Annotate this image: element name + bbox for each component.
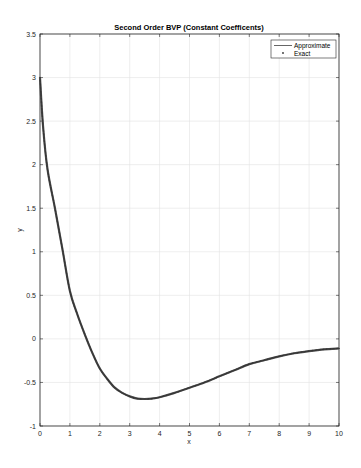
exact-marker <box>138 398 140 400</box>
x-tick-label: 5 <box>188 430 192 437</box>
exact-marker <box>40 99 42 101</box>
exact-marker <box>64 263 66 265</box>
exact-marker <box>44 148 46 150</box>
exact-marker <box>41 105 43 107</box>
y-tick-label: 1 <box>32 248 36 255</box>
exact-marker <box>303 351 305 353</box>
exact-marker <box>330 348 332 350</box>
exact-marker <box>63 259 65 261</box>
exact-marker <box>67 277 69 279</box>
exact-marker <box>159 396 161 398</box>
exact-marker <box>324 348 326 350</box>
exact-marker <box>42 124 44 126</box>
x-tick-label: 3 <box>128 430 132 437</box>
exact-marker <box>152 398 154 400</box>
exact-marker <box>144 398 146 400</box>
exact-marker <box>44 141 46 143</box>
exact-marker <box>52 199 54 201</box>
exact-marker <box>64 262 66 264</box>
exact-marker <box>44 145 46 147</box>
exact-marker <box>302 351 304 353</box>
exact-marker <box>57 222 59 224</box>
exact-marker <box>45 155 47 157</box>
exact-marker <box>42 121 44 123</box>
exact-marker <box>316 349 318 351</box>
exact-marker <box>43 130 45 132</box>
exact-marker <box>53 201 55 203</box>
exact-marker <box>49 184 51 186</box>
exact-marker <box>272 357 274 359</box>
exact-marker <box>49 181 51 183</box>
exact-marker <box>41 112 43 114</box>
exact-marker <box>65 267 67 269</box>
exact-marker <box>46 160 48 162</box>
exact-marker <box>68 285 70 287</box>
exact-marker <box>334 348 336 350</box>
exact-marker <box>47 167 49 169</box>
exact-marker <box>50 186 52 188</box>
exact-marker <box>261 360 263 362</box>
exact-marker <box>64 260 66 262</box>
exact-marker <box>58 226 60 228</box>
exact-marker <box>58 229 60 231</box>
exact-marker <box>148 398 150 400</box>
exact-marker <box>42 120 44 122</box>
exact-marker <box>62 252 64 254</box>
exact-marker <box>40 85 42 87</box>
exact-marker <box>60 238 62 240</box>
exact-marker <box>47 170 49 172</box>
exact-marker <box>41 103 43 105</box>
x-tick-labels: 012345678910 <box>38 430 343 437</box>
exact-marker <box>295 352 297 354</box>
exact-marker <box>63 258 65 260</box>
exact-marker <box>68 284 70 286</box>
exact-marker <box>50 189 52 191</box>
exact-marker <box>312 350 314 352</box>
exact-marker <box>45 153 47 155</box>
exact-marker <box>309 350 311 352</box>
exact-marker <box>45 157 47 159</box>
exact-marker <box>46 166 48 168</box>
exact-marker <box>67 281 69 283</box>
exact-marker <box>335 348 337 350</box>
exact-marker <box>49 180 51 182</box>
exact-marker <box>40 88 42 90</box>
exact-marker <box>276 356 278 358</box>
exact-marker <box>253 362 255 364</box>
exact-marker <box>59 234 61 236</box>
exact-marker <box>57 225 59 227</box>
exact-marker <box>301 351 303 353</box>
exact-marker <box>56 215 58 217</box>
exact-marker <box>256 361 258 363</box>
exact-marker <box>42 128 44 130</box>
x-tick-label: 0 <box>38 430 42 437</box>
exact-marker <box>51 192 53 194</box>
exact-marker <box>282 355 284 357</box>
exact-marker <box>55 214 57 216</box>
exact-marker <box>41 114 43 116</box>
exact-marker <box>70 293 72 295</box>
exact-marker <box>271 357 273 359</box>
exact-marker <box>47 171 49 173</box>
exact-marker <box>40 93 42 95</box>
x-tick-label: 2 <box>98 430 102 437</box>
exact-marker <box>292 353 294 355</box>
exact-marker <box>69 289 71 291</box>
exact-marker <box>260 360 262 362</box>
exact-marker <box>268 358 270 360</box>
legend-label-exact: Exact <box>294 50 310 57</box>
exact-marker <box>160 396 162 398</box>
exact-marker <box>61 245 63 247</box>
exact-marker <box>64 265 66 267</box>
exact-marker <box>58 230 60 232</box>
exact-marker <box>60 241 62 243</box>
exact-marker <box>313 350 315 352</box>
exact-marker <box>259 361 261 363</box>
exact-marker <box>265 359 267 361</box>
exact-marker <box>65 270 67 272</box>
exact-marker <box>56 218 58 220</box>
exact-marker <box>66 273 68 275</box>
exact-marker <box>43 135 45 137</box>
exact-marker <box>47 169 49 171</box>
exact-marker <box>41 107 43 109</box>
